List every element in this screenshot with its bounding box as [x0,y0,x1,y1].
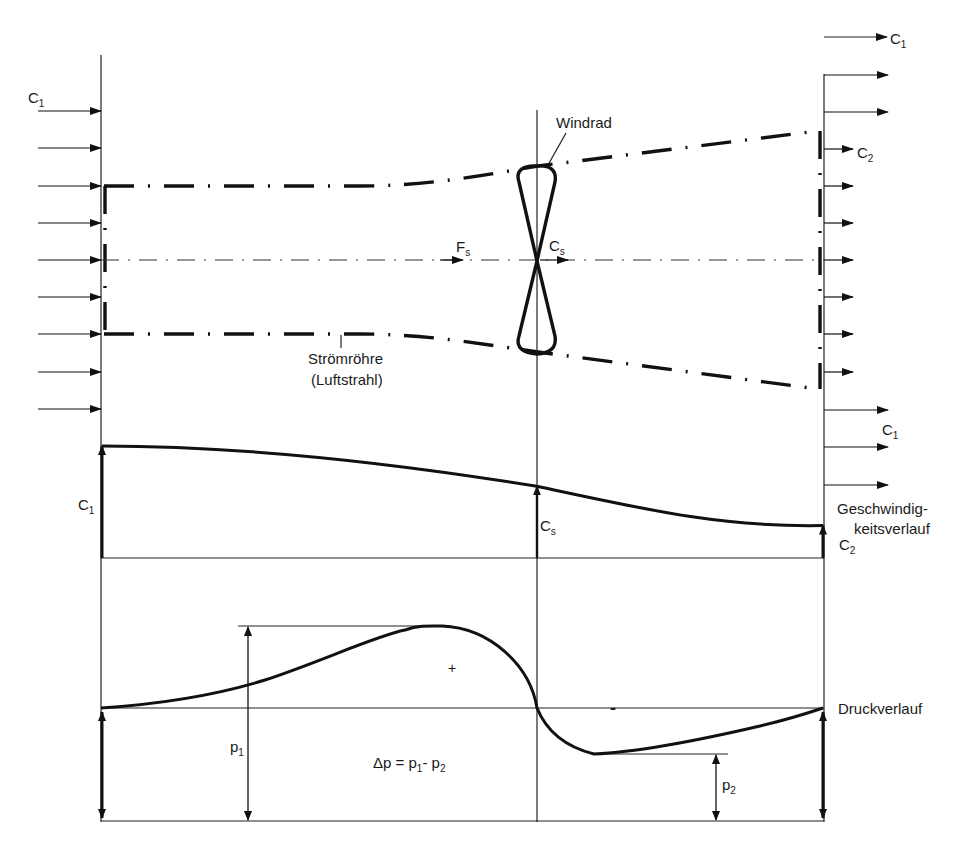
label-c1-outlet-lower: C1 [882,421,899,441]
inlet-velocity-arrows [38,111,101,409]
stream-tube-lower-boundary [104,334,818,389]
pressure-profile: p1 p2 Δp = p1- p2 + - Druckverlauf [101,626,923,821]
label-plus-region: + [448,660,456,676]
label-c1-velocity: C1 [78,496,95,516]
label-delta-p-formula: Δp = p1- p2 [373,754,446,774]
label-keitsverlauf: keitsverlauf [854,520,931,537]
label-cs-rotor: Cs [549,237,565,257]
outlet-velocity-arrows [824,75,888,485]
velocity-profile: C1 Cs C2 Geschwindig- keitsverlauf [78,446,931,558]
label-minus-region: - [610,698,616,718]
label-cs-velocity: Cs [540,517,556,537]
label-c2-velocity: C2 [839,536,856,556]
stream-tube: Fs Cs Strömröhre (Luftstrahl) [101,131,824,389]
inlet-section: C1 [28,55,101,822]
wind-rotor: Windrad [518,110,612,822]
label-c1-inlet: C1 [28,89,45,109]
velocity-curve [102,446,823,526]
label-druckverlauf: Druckverlauf [838,700,923,717]
label-p2: p2 [722,776,736,796]
label-windrad: Windrad [556,114,612,131]
windrad-leader-line [548,133,566,165]
pressure-curve [101,626,823,754]
label-luftstrahl: (Luftstrahl) [311,371,383,388]
label-fs: Fs [456,238,470,258]
label-p1: p1 [230,738,244,758]
stream-tube-upper-boundary [104,131,818,186]
label-c1-top-right: C1 [890,30,907,50]
label-c2-outlet: C2 [857,144,874,164]
label-geschwindigkeit: Geschwindig- [837,500,928,517]
wind-turbine-flow-diagram: C1 C1 C2 C1 Fs Cs Strömröhre (Luftstrahl… [0,0,976,858]
label-stromrohre: Strömröhre [308,350,383,367]
